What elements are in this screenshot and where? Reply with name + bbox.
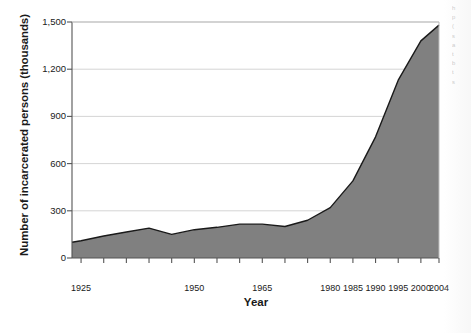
adjacent-text-line: s <box>452 78 471 87</box>
x-tick-label: 1980 <box>320 283 340 293</box>
adjacent-text-line: h <box>452 4 471 13</box>
adjacent-text-line: t <box>452 50 471 59</box>
adjacent-page-text-sliver: hp(satbts <box>452 4 471 124</box>
adjacent-text-line: p <box>452 13 471 22</box>
x-tick-label: 1985 <box>343 283 363 293</box>
x-tick-label: 1995 <box>388 283 408 293</box>
x-tick-label: 2004 <box>429 283 449 293</box>
x-axis-title: Year <box>72 296 440 308</box>
x-tick-label: 1990 <box>366 283 386 293</box>
adjacent-text-line: b <box>452 59 471 68</box>
x-tick-label: 1965 <box>252 283 272 293</box>
x-tick-label: 2000 <box>411 283 431 293</box>
x-tick-label: 1925 <box>71 283 91 293</box>
adjacent-text-line: a <box>452 41 471 50</box>
x-tick-label: 1950 <box>184 283 204 293</box>
chart-figure: Number of incarcerated persons (thousand… <box>0 0 471 333</box>
adjacent-text-line: s <box>452 32 471 41</box>
adjacent-text-line: ( <box>452 22 471 31</box>
adjacent-text-line: t <box>452 68 471 77</box>
